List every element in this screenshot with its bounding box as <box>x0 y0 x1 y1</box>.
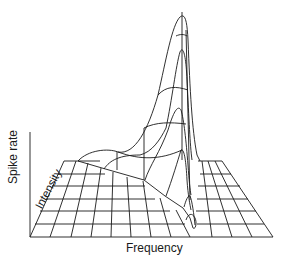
wireframe-surface-plot <box>0 0 285 268</box>
base-grid-rows <box>30 161 273 237</box>
y-axis-label: Spike rate <box>6 130 20 184</box>
surface-frequency-contours <box>117 12 190 200</box>
surface-ridge-diagonal <box>78 161 193 228</box>
tuning-surface-figure: Frequency Spike rate Intensity <box>0 0 285 268</box>
x-axis-label: Frequency <box>126 241 183 255</box>
